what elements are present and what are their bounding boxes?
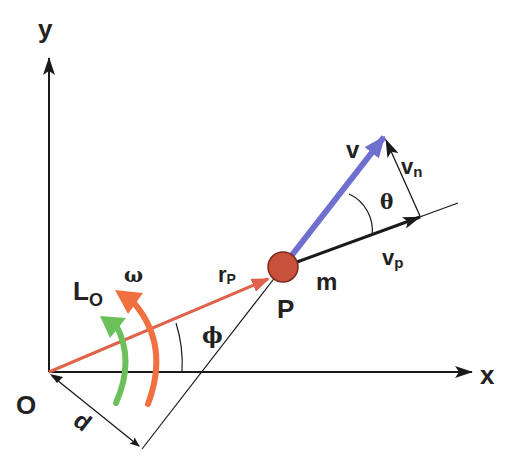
point-label: P xyxy=(277,294,294,324)
distance-label: d xyxy=(69,406,97,436)
theta-label: θ xyxy=(380,190,393,214)
origin-label: O xyxy=(16,390,36,420)
phi-label: ϕ xyxy=(202,322,223,348)
diagram-canvas: y x O d LO ω rP ϕ P m v θ vn vp xyxy=(0,0,515,468)
velocity-vector-v xyxy=(292,137,384,255)
position-vector-label: rP xyxy=(218,262,236,287)
velocity-normal-label: vn xyxy=(401,154,422,180)
angular-momentum-arrow xyxy=(100,316,126,403)
mass-particle xyxy=(268,252,298,282)
distance-d-arrow xyxy=(50,374,139,446)
theta-angle-arc xyxy=(349,194,372,236)
velocity-label: v xyxy=(346,136,360,163)
x-axis-label: x xyxy=(480,360,495,390)
angular-momentum-label: LO xyxy=(73,276,103,310)
omega-label: ω xyxy=(124,263,143,287)
y-axis-label: y xyxy=(38,14,53,44)
mass-label: m xyxy=(316,268,337,295)
phi-angle-arc xyxy=(176,323,182,372)
velocity-parallel-label: vp xyxy=(382,245,403,271)
